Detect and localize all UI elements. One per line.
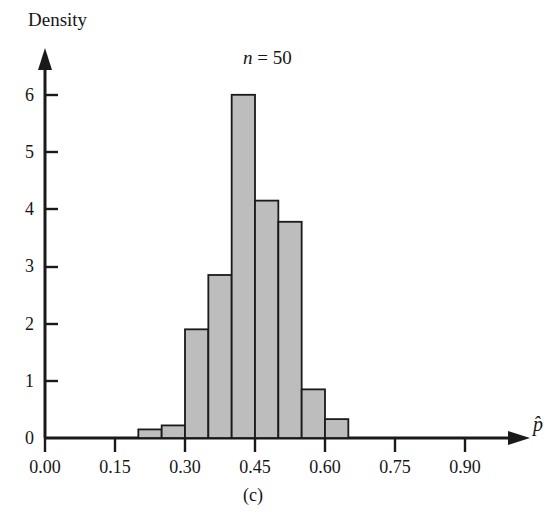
- histogram-bar: [185, 329, 208, 438]
- y-tick-marks: [45, 95, 58, 381]
- histogram-bar: [232, 95, 255, 438]
- histogram-figure: Density n = 50 p̂ (c) 0123456 0.000.150.…: [0, 0, 554, 518]
- histogram-bar: [208, 275, 231, 438]
- histogram-plot-area: [0, 0, 554, 518]
- x-axis-title: p̂: [533, 414, 543, 434]
- histogram-bar: [255, 201, 278, 438]
- y-tick-label: 5: [14, 143, 34, 161]
- x-tick-label: 0.60: [295, 458, 355, 476]
- sample-size-symbol: n: [243, 47, 253, 68]
- y-tick-label: 3: [14, 257, 34, 275]
- y-tick-label: 6: [14, 86, 34, 104]
- panel-caption: (c): [243, 486, 263, 504]
- histogram-bar: [278, 222, 301, 438]
- histogram-bar: [325, 419, 348, 438]
- y-axis-arrowhead: [38, 48, 52, 70]
- sample-size-value: = 50: [257, 47, 291, 68]
- x-tick-marks: [45, 438, 465, 452]
- x-tick-label: 0.00: [15, 458, 75, 476]
- histogram-bar: [162, 425, 185, 438]
- sample-size-annotation: n = 50: [243, 48, 292, 67]
- histogram-bar: [302, 389, 325, 438]
- y-tick-label: 0: [14, 429, 34, 447]
- x-tick-label: 0.45: [225, 458, 285, 476]
- histogram-bar: [138, 429, 161, 438]
- y-tick-label: 2: [14, 315, 34, 333]
- x-axis-arrowhead: [508, 431, 530, 445]
- y-tick-label: 1: [14, 372, 34, 390]
- y-tick-label: 4: [14, 200, 34, 218]
- x-tick-label: 0.90: [435, 458, 495, 476]
- y-axis-title: Density: [28, 10, 87, 29]
- x-tick-label: 0.30: [155, 458, 215, 476]
- x-tick-label: 0.75: [365, 458, 425, 476]
- x-tick-label: 0.15: [85, 458, 145, 476]
- histogram-bars: [138, 95, 348, 438]
